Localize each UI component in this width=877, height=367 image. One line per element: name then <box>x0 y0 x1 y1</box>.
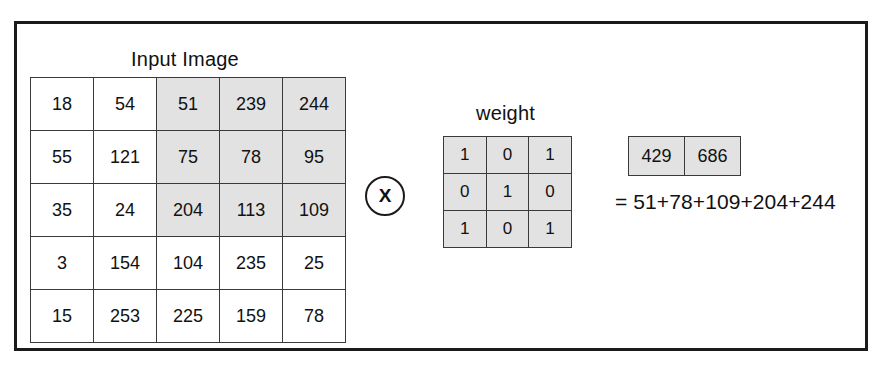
weight-cell: 1 <box>486 174 529 211</box>
table-row: 0 1 0 <box>444 174 572 211</box>
diagram-frame: Input Image 18 54 51 239 244 55 121 75 7… <box>14 21 868 351</box>
weight-cell: 1 <box>529 137 572 174</box>
sum-equation: = 51+78+109+204+244 <box>615 190 836 214</box>
input-cell: 121 <box>94 131 157 184</box>
input-cell: 244 <box>283 78 346 131</box>
table-row: 3 154 104 235 25 <box>31 237 346 290</box>
input-cell: 113 <box>220 184 283 237</box>
weight-cell: 1 <box>444 137 487 174</box>
input-cell: 54 <box>94 78 157 131</box>
output-cell: 686 <box>685 137 741 176</box>
table-row: 18 54 51 239 244 <box>31 78 346 131</box>
input-cell: 109 <box>283 184 346 237</box>
table-row: 15 253 225 159 78 <box>31 290 346 343</box>
input-image-matrix: 18 54 51 239 244 55 121 75 78 95 35 24 2… <box>30 77 346 343</box>
input-image-label: Input Image <box>30 48 340 71</box>
table-row: 55 121 75 78 95 <box>31 131 346 184</box>
output-matrix: 429 686 <box>628 136 741 176</box>
weight-cell: 0 <box>444 174 487 211</box>
weight-cell: 1 <box>444 211 487 248</box>
input-cell: 78 <box>283 290 346 343</box>
input-cell: 95 <box>283 131 346 184</box>
input-cell: 204 <box>157 184 220 237</box>
weight-cell: 0 <box>486 137 529 174</box>
input-cell: 75 <box>157 131 220 184</box>
table-row: 1 0 1 <box>444 137 572 174</box>
input-cell: 24 <box>94 184 157 237</box>
input-cell: 35 <box>31 184 94 237</box>
input-cell: 3 <box>31 237 94 290</box>
table-row: 35 24 204 113 109 <box>31 184 346 237</box>
input-cell: 154 <box>94 237 157 290</box>
table-row: 1 0 1 <box>444 211 572 248</box>
input-cell: 253 <box>94 290 157 343</box>
input-cell: 51 <box>157 78 220 131</box>
input-cell: 225 <box>157 290 220 343</box>
table-row: 429 686 <box>629 137 741 176</box>
output-cell: 429 <box>629 137 685 176</box>
weight-cell: 0 <box>529 174 572 211</box>
input-cell: 55 <box>31 131 94 184</box>
input-cell: 15 <box>31 290 94 343</box>
weight-cell: 1 <box>529 211 572 248</box>
input-cell: 235 <box>220 237 283 290</box>
input-cell: 18 <box>31 78 94 131</box>
input-cell: 104 <box>157 237 220 290</box>
multiply-operator-icon: X <box>365 176 405 216</box>
input-cell: 78 <box>220 131 283 184</box>
weight-label: weight <box>443 102 568 125</box>
input-cell: 239 <box>220 78 283 131</box>
weight-matrix: 1 0 1 0 1 0 1 0 1 <box>443 136 572 248</box>
input-cell: 25 <box>283 237 346 290</box>
input-cell: 159 <box>220 290 283 343</box>
weight-cell: 0 <box>486 211 529 248</box>
